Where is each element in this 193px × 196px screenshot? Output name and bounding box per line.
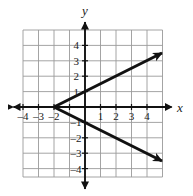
x-tick-labels: –4 –3 –2 1 2 3 4 bbox=[17, 110, 151, 122]
y-tick-label: 3 bbox=[74, 55, 80, 67]
graph-figure: –4 –3 –2 1 2 3 4 4 3 2 1 –1 –2 –3 –4 x y bbox=[0, 0, 193, 196]
y-tick-label: –1 bbox=[70, 116, 82, 128]
y-tick-label: –4 bbox=[70, 163, 83, 175]
x-tick-label: 3 bbox=[129, 110, 135, 122]
x-axis-right-arrow bbox=[165, 103, 173, 111]
y-tick-label: 1 bbox=[74, 86, 80, 98]
x-tick-label: –4 bbox=[17, 110, 30, 122]
y-tick-label: 4 bbox=[74, 39, 80, 51]
x-tick-label: –2 bbox=[48, 110, 60, 122]
x-axis-label: x bbox=[176, 100, 183, 115]
y-axis-top-arrow bbox=[81, 22, 89, 30]
y-axis-label: y bbox=[80, 3, 88, 18]
x-tick-label: 2 bbox=[113, 110, 119, 122]
coordinate-plane: –4 –3 –2 1 2 3 4 4 3 2 1 –1 –2 –3 –4 x y bbox=[0, 0, 193, 196]
x-tick-label: 1 bbox=[98, 110, 104, 122]
x-tick-label: 4 bbox=[144, 110, 150, 122]
x-tick-label: –3 bbox=[32, 110, 45, 122]
grid-horizontal-lines bbox=[23, 30, 163, 177]
y-axis-bottom-arrow bbox=[81, 182, 89, 190]
y-tick-label: 2 bbox=[74, 70, 80, 82]
y-tick-label: –3 bbox=[70, 147, 83, 159]
y-tick-label: –2 bbox=[70, 132, 82, 144]
grid-vertical-lines bbox=[23, 30, 163, 177]
